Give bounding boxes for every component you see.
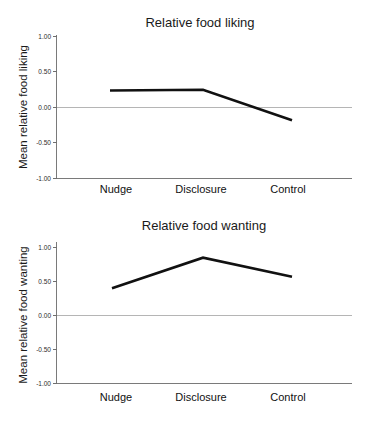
x-tick-label-disclosure: Disclosure xyxy=(175,391,226,403)
y-tick-label: 1.00 xyxy=(38,33,51,40)
y-axis-title-wanting: Mean relative food wanting xyxy=(17,246,29,383)
x-tick-group-liking: Nudge Disclosure Control xyxy=(100,183,306,195)
y-tick-group-wanting: 1.00 0.50 0.00 -0.50 -1.00 xyxy=(36,244,56,387)
y-tick-label: 0.00 xyxy=(38,104,51,111)
y-tick-label: -0.50 xyxy=(36,139,51,146)
x-tick-label-nudge: Nudge xyxy=(100,391,132,403)
x-tick-label-control: Control xyxy=(270,183,305,195)
data-series-line-wanting xyxy=(112,258,292,289)
figure-container: Relative food liking Mean relative food … xyxy=(0,0,365,421)
y-tick-label: 0.50 xyxy=(38,278,51,285)
chart-svg-liking: Relative food liking Mean relative food … xyxy=(0,0,365,200)
y-tick-label: -1.00 xyxy=(36,175,51,182)
chart-panel-relative-food-liking: Relative food liking Mean relative food … xyxy=(0,0,365,200)
y-tick-label: -0.50 xyxy=(36,346,51,353)
chart-svg-wanting: Relative food wanting Mean relative food… xyxy=(0,205,365,421)
x-tick-label-disclosure: Disclosure xyxy=(175,183,226,195)
chart-title-wanting: Relative food wanting xyxy=(142,218,266,233)
y-axis-title-liking: Mean relative food liking xyxy=(17,45,29,169)
y-tick-label: 0.50 xyxy=(38,68,51,75)
chart-title-liking: Relative food liking xyxy=(145,15,254,30)
y-tick-label: 1.00 xyxy=(38,244,51,251)
chart-panel-relative-food-wanting: Relative food wanting Mean relative food… xyxy=(0,205,365,421)
y-tick-label: 0.00 xyxy=(38,312,51,319)
x-tick-group-wanting: Nudge Disclosure Control xyxy=(100,391,306,403)
x-tick-label-nudge: Nudge xyxy=(100,183,132,195)
y-tick-group-liking: 1.00 0.50 0.00 -0.50 -1.00 xyxy=(36,33,56,182)
data-series-line-liking xyxy=(110,90,292,121)
y-tick-label: -1.00 xyxy=(36,380,51,387)
x-tick-label-control: Control xyxy=(270,391,305,403)
